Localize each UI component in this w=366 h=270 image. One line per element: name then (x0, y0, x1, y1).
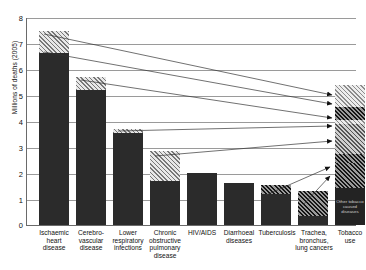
tobacco-segment-inbar-label: Other tobacco caused diseases (336, 199, 364, 215)
x-label-line: lung cancers (284, 244, 344, 252)
bar-segment-tobacco-attributed (76, 77, 106, 90)
x-label-line: use (326, 237, 366, 245)
x-label-line: Tobacco (326, 229, 366, 237)
y-axis-label: Millions of deaths (2005) (11, 18, 18, 138)
y-tick-0: 0 (19, 221, 23, 230)
bar-tobacco-use[interactable]: Other tobacco caused diseases (335, 85, 365, 225)
tobacco-segment-ischaemic-heart-disease (335, 85, 365, 107)
y-tick-6: 6 (19, 66, 23, 75)
bar-segment-other (39, 53, 69, 225)
bar-segment-other (187, 173, 217, 225)
bar-ischaemic-heart-disease[interactable] (39, 31, 69, 225)
bar-cerebrovascular-disease[interactable] (76, 77, 106, 225)
bar-hiv-aids[interactable] (187, 173, 217, 225)
gridline-8: 8 (26, 18, 356, 19)
bar-chronic-obstructive-pulmonary-disease[interactable] (150, 151, 180, 225)
bar-segment-tobacco-attributed (150, 151, 180, 181)
y-tick-2: 2 (19, 170, 23, 179)
gridline-6: 6 (26, 70, 356, 71)
bar-segment-tobacco-attributed (298, 191, 328, 216)
bar-segment-tobacco-attributed (39, 31, 69, 53)
x-axis-labels: Ischaemic heart disease Cerebro- vascula… (26, 229, 356, 270)
bar-segment-other (261, 194, 291, 225)
tobacco-segment-tuberculosis (335, 154, 365, 163)
x-label-line: diseases (213, 237, 265, 245)
bar-segment-other (224, 183, 254, 225)
bar-lower-respiratory-infections[interactable] (113, 129, 143, 225)
y-tick-1: 1 (19, 196, 23, 205)
tobacco-segment-lung-cancers (335, 163, 365, 188)
x-label-line: pulmonary (139, 244, 191, 252)
x-label-line: disease (139, 252, 191, 260)
plot-area: 8 7 6 5 4 3 2 1 0 (26, 18, 356, 226)
bar-segment-other (298, 216, 328, 225)
y-tick-4: 4 (19, 118, 23, 127)
bar-tuberculosis[interactable] (261, 185, 291, 225)
bar-segment-other (76, 90, 106, 225)
gridline-7: 7 (26, 44, 356, 45)
y-axis-line (26, 18, 27, 226)
y-tick-8: 8 (19, 14, 23, 23)
y-tick-7: 7 (19, 40, 23, 49)
bar-segment-other (113, 133, 143, 225)
x-axis-line (26, 225, 356, 226)
x-label-tobacco-use: Tobacco use (326, 229, 366, 244)
bar-segment-tobacco-attributed (261, 185, 291, 194)
y-tick-5: 5 (19, 92, 23, 101)
chart-container: Millions of deaths (2005) 8 7 6 5 4 3 2 … (0, 0, 366, 270)
tobacco-segment-cerebrovascular-disease (335, 107, 365, 120)
y-tick-3: 3 (19, 144, 23, 153)
x-label-line: obstructive (139, 237, 191, 245)
bar-trachea-bronchus-lung-cancers[interactable] (298, 191, 328, 225)
tobacco-segment-other-tobacco-caused-diseases: Other tobacco caused diseases (335, 188, 365, 225)
bar-diarrhoeal-diseases[interactable] (224, 183, 254, 225)
bar-segment-other (150, 181, 180, 225)
tobacco-segment-copd (335, 124, 365, 154)
